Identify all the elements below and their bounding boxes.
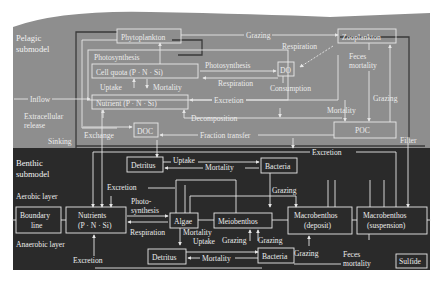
svg-text:Zooplankton: Zooplankton bbox=[342, 33, 381, 42]
label-mortality: Mortality bbox=[153, 83, 182, 92]
ecosystem-model-diagram: Pelagic submodel Benthic submodel Phytop… bbox=[0, 0, 442, 287]
benthic-section-label: Benthic bbox=[16, 158, 43, 168]
svg-text:(suspension): (suspension) bbox=[367, 221, 406, 230]
label-excretion-top: Excretion bbox=[312, 148, 342, 157]
label-grazing-meio-1: Grazing bbox=[222, 236, 247, 245]
svg-text:Nutrients: Nutrients bbox=[78, 211, 106, 220]
label-inflow: Inflow bbox=[30, 95, 51, 104]
label-excretion: Excretion bbox=[214, 96, 244, 105]
label-extracellular-release-2: release bbox=[24, 121, 46, 130]
label-excretion-mid: Excretion bbox=[107, 183, 137, 192]
label-mortality-algae: Mortality bbox=[183, 228, 212, 237]
label-anaerobic-layer: Anaerobic layer bbox=[16, 240, 65, 249]
label-grazing-mid: Grazing bbox=[272, 186, 297, 195]
svg-text:Macrobenthos: Macrobenthos bbox=[294, 211, 337, 220]
svg-text:Sulfide: Sulfide bbox=[399, 257, 422, 266]
svg-text:Detritus: Detritus bbox=[131, 161, 156, 170]
label-decomposition: Decomposition bbox=[191, 114, 238, 123]
svg-text:Cell quota (P · N · Si): Cell quota (P · N · Si) bbox=[96, 68, 163, 77]
label-feces-bottom: Feces bbox=[343, 250, 360, 259]
svg-text:line: line bbox=[31, 221, 43, 230]
label-consumption: Consumption bbox=[270, 84, 311, 93]
svg-text:Bacteria: Bacteria bbox=[265, 162, 291, 171]
svg-text:(deposit): (deposit) bbox=[304, 221, 331, 230]
pelagic-section-label-2: submodel bbox=[16, 44, 50, 54]
label-sinking: Sinking bbox=[48, 137, 72, 146]
label-uptake: Uptake bbox=[100, 83, 123, 92]
label-photosynthesis: Photosynthesis bbox=[94, 53, 140, 62]
svg-text:Phytoplankton: Phytoplankton bbox=[121, 33, 166, 42]
label-uptake-bottom: Uptake bbox=[193, 237, 216, 246]
svg-text:DOC: DOC bbox=[137, 127, 153, 136]
svg-text:DO: DO bbox=[280, 66, 291, 75]
label-synthesis: synthesis bbox=[131, 206, 159, 215]
svg-text:POC: POC bbox=[355, 126, 370, 135]
svg-text:Bacteria: Bacteria bbox=[262, 252, 288, 261]
label-respiration-do: Respiration bbox=[218, 79, 253, 88]
svg-text:Algae: Algae bbox=[174, 217, 193, 226]
label-grazing-meio-2: Grazing bbox=[258, 236, 283, 245]
svg-text:Meiobenthos: Meiobenthos bbox=[218, 217, 258, 226]
benthic-section-label-2: submodel bbox=[16, 169, 50, 179]
label-filter: Filter bbox=[400, 136, 417, 145]
label-grazing-macro: Grazing bbox=[294, 249, 319, 258]
label-mortality-top: Mortality bbox=[205, 163, 234, 172]
label-feces-mortality-2: mortality bbox=[349, 61, 377, 70]
label-excretion-bottom: Excretion bbox=[73, 256, 103, 265]
svg-text:(P · N · Si): (P · N · Si) bbox=[78, 221, 112, 230]
label-photo: Photo- bbox=[131, 197, 152, 206]
label-extracellular-release: Extracellular bbox=[24, 112, 64, 121]
label-respiration: Respiration bbox=[130, 228, 165, 237]
svg-text:Macrobenthos: Macrobenthos bbox=[363, 211, 406, 220]
label-aerobic-layer: Aerobic layer bbox=[16, 192, 58, 201]
label-uptake-top: Uptake bbox=[173, 156, 196, 165]
label-exchange: Exchange bbox=[84, 131, 115, 140]
label-mortality-poc: Mortality bbox=[327, 106, 356, 115]
label-fraction-transfer: Fraction transfer bbox=[200, 131, 251, 140]
label-photosynthesis-do: Photosynthesis bbox=[205, 61, 251, 70]
pelagic-section-label: Pelagic bbox=[16, 33, 41, 43]
label-feces-mortality: Feces bbox=[349, 52, 366, 61]
label-grazing-poc: Grazing bbox=[373, 94, 398, 103]
label-mortality-bottom: Mortality bbox=[202, 254, 231, 263]
label-feces-bottom-2: mortality bbox=[343, 259, 371, 268]
svg-text:Boundary: Boundary bbox=[20, 211, 50, 220]
svg-text:Nutrient (P · N · Si): Nutrient (P · N · Si) bbox=[96, 99, 157, 108]
label-grazing-top: Grazing bbox=[246, 31, 271, 40]
svg-text:Detritus: Detritus bbox=[152, 253, 177, 262]
